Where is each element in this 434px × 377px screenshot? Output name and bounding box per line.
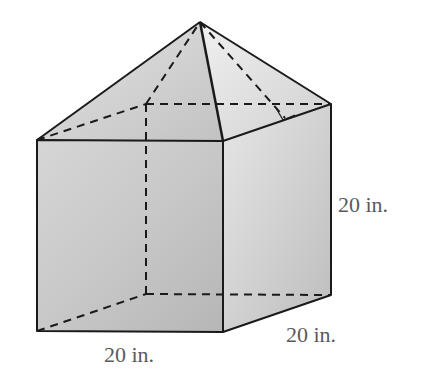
depth-label: 20 in. xyxy=(286,322,336,347)
width-label: 20 in. xyxy=(104,342,154,367)
cube-right-face xyxy=(223,104,331,332)
pyramid-front-face xyxy=(37,22,223,141)
height-label: 20 in. xyxy=(338,192,388,217)
cube-front-face xyxy=(37,140,223,332)
composite-solid-figure: 20 in. 20 in. 20 in. xyxy=(0,0,434,377)
